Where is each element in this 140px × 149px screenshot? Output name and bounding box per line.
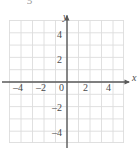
x-axis-label: x (132, 73, 136, 83)
x-tick-label-neg4: –4 (13, 83, 23, 93)
x-tick-label-origin: 0 (59, 83, 64, 93)
y-tick-label-4: 4 (57, 30, 62, 40)
y-tick-label-2: 2 (57, 55, 62, 65)
y-tick-label-neg4: –4 (52, 128, 62, 138)
y-tick-label-neg2: –2 (52, 103, 62, 113)
x-axis-arrowhead (125, 79, 131, 84)
x-tick-label-4: 4 (106, 83, 111, 93)
top-partial-glyph: 5 (27, 0, 33, 5)
coordinate-grid-figure: 5 (0, 0, 140, 149)
x-tick-label-neg2: –2 (36, 83, 46, 93)
x-tick-label-2: 2 (83, 83, 88, 93)
y-axis-label: y (63, 12, 67, 22)
